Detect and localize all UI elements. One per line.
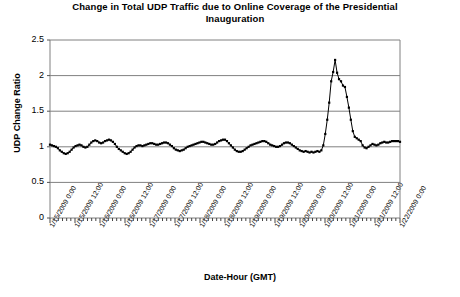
- data-series-markers: [49, 59, 401, 155]
- axis-ticks: [47, 40, 400, 223]
- chart-container: Change in Total UDP Traffic due to Onlin…: [0, 0, 460, 297]
- gridlines: [50, 40, 400, 182]
- plot-area: [0, 0, 460, 297]
- axes: [50, 40, 400, 218]
